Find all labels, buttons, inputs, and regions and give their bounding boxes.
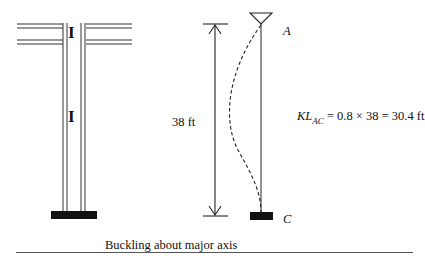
length-label: 38 ft xyxy=(172,116,195,129)
formula-prefix: KL xyxy=(297,109,312,123)
section-symbol-top: I xyxy=(68,24,75,41)
formula-subscript: AC xyxy=(312,116,324,126)
figure-caption: Buckling about major axis xyxy=(105,238,237,253)
divider-rule xyxy=(16,252,413,253)
node-label-c: C xyxy=(283,213,291,226)
dimension-line xyxy=(203,24,228,216)
section-symbol-mid: I xyxy=(68,108,75,125)
effective-length-formula: KLAC = 0.8 × 38 = 30.4 ft xyxy=(297,110,424,126)
buckled-shape xyxy=(229,25,261,212)
pin-support-icon xyxy=(250,13,272,24)
node-label-a: A xyxy=(283,25,291,38)
right-fixed-base xyxy=(250,212,273,220)
buckling-diagram-graphics xyxy=(0,0,425,264)
formula-rest: = 0.8 × 38 = 30.4 ft xyxy=(324,109,425,123)
left-fixed-base xyxy=(51,211,97,219)
